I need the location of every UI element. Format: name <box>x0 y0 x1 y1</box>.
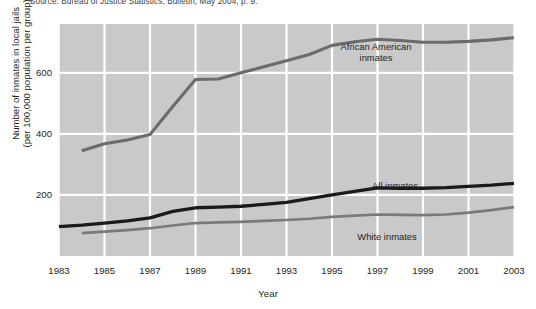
x-tick-label: 1999 <box>403 265 443 276</box>
x-tick-label: 1985 <box>85 265 125 276</box>
x-tick-label: 1993 <box>267 265 307 276</box>
y-tick-label: 200 <box>18 189 52 200</box>
x-tick-label: 2003 <box>494 265 534 276</box>
x-tick-label: 1989 <box>176 265 216 276</box>
line-chart-canvas <box>0 0 536 309</box>
x-tick-label: 1983 <box>39 265 79 276</box>
x-tick-label: 1995 <box>312 265 352 276</box>
x-axis-title: Year <box>0 288 536 299</box>
x-tick-label: 1991 <box>221 265 261 276</box>
chart-figure: Source: Bureau of Justice Statistics, Bu… <box>0 0 536 309</box>
y-tick-label: 400 <box>18 128 52 139</box>
y-tick-label: 600 <box>18 67 52 78</box>
x-tick-label: 2001 <box>449 265 489 276</box>
x-tick-label: 1987 <box>130 265 170 276</box>
x-tick-label: 1997 <box>358 265 398 276</box>
